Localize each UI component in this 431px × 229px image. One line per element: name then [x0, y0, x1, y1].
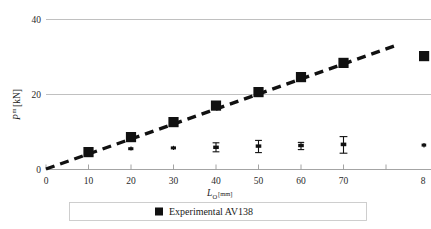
y-tick-label-0: 0: [36, 165, 41, 175]
legend-label: Experimental AV138: [169, 206, 253, 217]
data-point-secondary: [255, 140, 262, 152]
x-axis-title-main: L: [206, 188, 212, 198]
y-tick-label-20: 20: [32, 90, 42, 100]
x-tick-label-60: 60: [296, 176, 306, 186]
data-point-marker: [126, 132, 136, 142]
data-point-marker: [83, 147, 93, 157]
data-point-marker: [296, 72, 306, 82]
x-tick-label-30: 30: [169, 176, 179, 186]
data-point-secondary: [422, 143, 427, 147]
y-axis-title: P m [kN]: [10, 89, 22, 121]
x-tick-label-10: 10: [84, 176, 94, 186]
x-axis-title: L O [mm]: [206, 188, 232, 200]
y-tick-labels: 40 20 0: [32, 15, 42, 175]
data-point-secondary: [213, 143, 220, 152]
x-tick-label-20: 20: [126, 176, 136, 186]
data-point-marker: [211, 101, 221, 111]
figure-container: 40 20 0 0 10 20 30 40 50 60 70 8 P m [kN…: [0, 0, 431, 229]
x-axis-title-subscript: O: [213, 193, 218, 200]
data-point-secondary: [298, 142, 304, 149]
x-tickmarks: [46, 165, 386, 170]
data-point-secondary: [340, 137, 348, 154]
y-axis-title-superscript: m: [10, 108, 17, 113]
chart-svg: 40 20 0 0 10 20 30 40 50 60 70 8 P m [kN…: [0, 0, 431, 229]
y-axis-title-main: P: [12, 114, 22, 121]
x-tick-label-70: 70: [339, 176, 349, 186]
x-tick-label-50: 50: [254, 176, 264, 186]
y-axis-title-unit: [kN]: [12, 89, 22, 107]
x-tick-labels: 0 10 20 30 40 50 60 70 8: [44, 176, 426, 186]
series-secondary: [128, 137, 426, 154]
legend: Experimental AV138: [70, 203, 367, 221]
data-point-marker: [338, 58, 348, 68]
data-point-marker: [419, 51, 429, 61]
data-point-secondary: [171, 146, 176, 150]
data-point-marker: [253, 87, 263, 97]
x-tick-label-0: 0: [44, 176, 49, 186]
data-point-marker: [168, 117, 178, 127]
series-experimental-av138: [83, 51, 429, 157]
x-axis-title-unit: [mm]: [218, 190, 232, 198]
legend-marker-square: [155, 208, 163, 216]
data-point-secondary: [128, 147, 133, 151]
x-tick-label-80: 8: [421, 176, 426, 186]
y-tick-label-40: 40: [32, 15, 42, 25]
plot-area: 40 20 0 0 10 20 30 40 50 60 70 8 P m [kN…: [0, 0, 431, 229]
x-tick-label-40: 40: [211, 176, 221, 186]
